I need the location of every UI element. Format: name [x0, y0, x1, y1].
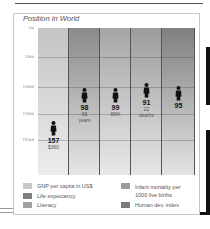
marker-human-dev-index: 95: [163, 86, 194, 109]
chart-title: Position in World: [23, 14, 79, 23]
legend-label: Infant mortality per 1000 live births: [135, 183, 193, 199]
legend-swatch: [23, 193, 32, 199]
left-foot-rule: [0, 208, 14, 213]
annotation-unit: deaths: [131, 112, 162, 118]
right-edge-bar-top: [206, 47, 210, 105]
legend-swatch: [121, 202, 130, 208]
legend-label: Life expectancy: [37, 193, 75, 199]
legend-swatch: [23, 202, 32, 208]
y-tick-150th: 150th: [4, 111, 34, 116]
legend-item-literacy: Literacy: [23, 202, 56, 208]
column-gnp: [38, 28, 69, 175]
right-edge-bar-bottom: [206, 130, 210, 215]
legend-label: Human dev. index: [135, 202, 179, 208]
rank-value: 95: [163, 102, 194, 109]
legend-label: GNP per capita in US$: [37, 183, 93, 189]
annotation: 89%: [100, 111, 131, 117]
marker-life-expectancy: 98 69 years: [69, 88, 100, 123]
marker-gnp: 157 $360: [38, 121, 69, 150]
y-tick-50th: 50th: [4, 54, 34, 59]
person-icon: [143, 83, 150, 98]
plot-area: 157 $360 98 69 years 99 89% 91 22 deaths: [38, 28, 195, 175]
y-tick-100th: 100th: [4, 84, 34, 89]
legend-label: Literacy: [37, 202, 56, 208]
person-icon: [175, 86, 182, 101]
legend-swatch: [23, 183, 32, 189]
marker-infant-mortality: 91 22 deaths: [131, 83, 162, 118]
y-tick-1st: 1st: [4, 25, 34, 30]
marker-literacy: 99 89%: [100, 88, 131, 117]
rank-value: 91: [131, 99, 162, 106]
person-icon: [81, 88, 88, 103]
gridline-50th: [38, 57, 195, 58]
person-icon: [112, 88, 119, 103]
top-rule: [15, 3, 203, 4]
legend-item-human-dev-index: Human dev. index: [121, 202, 179, 208]
annotation: $360: [38, 144, 69, 150]
rank-value: 98: [69, 104, 100, 111]
legend-item-life-expectancy: Life expectancy: [23, 193, 75, 199]
legend-item-infant-mortality: Infant mortality per 1000 live births: [121, 183, 193, 199]
y-tick-193rd: 193rd: [4, 137, 34, 142]
rank-value: 99: [100, 104, 131, 111]
legend-item-gnp: GNP per capita in US$: [23, 183, 93, 189]
rank-value: 157: [38, 137, 69, 144]
person-icon: [50, 121, 57, 136]
annotation-unit: years: [69, 117, 100, 123]
legend-swatch: [121, 183, 130, 189]
